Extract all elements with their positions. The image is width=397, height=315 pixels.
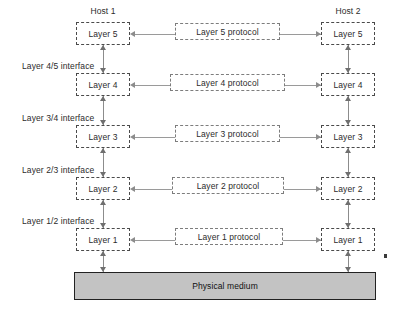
protocol-label-layer-5: Layer 5 protocol [175,23,280,40]
interface-arrow-up-host1-4-5 [100,45,106,50]
protocol-arrow-left-layer-4 [130,82,135,88]
protocol-arrow-right-layer-1 [316,237,321,243]
protocol-label-layer-3: Layer 3 protocol [175,125,280,142]
protocol-arrow-left-layer-1 [130,237,135,243]
protocol-arrow-left-layer-2 [130,186,135,192]
protocol-arrow-right-layer-4 [316,82,321,88]
interface-label-1-2: Layer 1/2 interface [22,216,94,226]
host2-layer-5-box[interactable]: Layer 5 [321,22,375,45]
interface-arrow-down-host1-4-5 [100,68,106,73]
protocol-stack-diagram: Host 1 Host 2 Layer 4/5 interface Layer … [0,0,397,315]
host2-label: Host 2 [321,6,375,16]
interface-arrow-up-host2-2-3 [345,148,351,153]
protocol-label-layer-4: Layer 4 protocol [170,74,285,91]
host2-layer-4-box[interactable]: Layer 4 [321,73,375,96]
physical-medium-bar: Physical medium [74,272,376,300]
host1-layer-1-box[interactable]: Layer 1 [76,228,130,251]
interface-arrow-up-host2-1-2 [345,200,351,205]
interface-arrow-down-host2-4-5 [345,68,351,73]
scan-artifact-speck [384,254,387,258]
interface-arrow-up-host2-4-5 [345,45,351,50]
interface-label-4-5: Layer 4/5 interface [22,61,94,71]
host1-layer-5-box[interactable]: Layer 5 [76,22,130,45]
interface-label-2-3: Layer 2/3 interface [22,165,94,175]
host1-layer-3-box[interactable]: Layer 3 [76,125,130,148]
protocol-arrow-right-layer-3 [316,134,321,140]
interface-arrow-up-host1-2-3 [100,148,106,153]
host1-layer-4-box[interactable]: Layer 4 [76,73,130,96]
medium-arrow-up-host1 [100,251,106,256]
interface-arrow-down-host2-3-4 [345,120,351,125]
interface-arrow-up-host1-1-2 [100,200,106,205]
interface-arrow-down-host1-3-4 [100,120,106,125]
interface-arrow-down-host2-1-2 [345,223,351,228]
interface-label-3-4: Layer 3/4 interface [22,113,94,123]
interface-arrow-up-host2-3-4 [345,96,351,101]
host2-layer-1-box[interactable]: Layer 1 [321,228,375,251]
protocol-label-layer-1: Layer 1 protocol [175,228,283,245]
host1-label: Host 1 [76,6,130,16]
host1-layer-2-box[interactable]: Layer 2 [76,177,130,200]
host2-layer-2-box[interactable]: Layer 2 [321,177,375,200]
interface-arrow-down-host1-2-3 [100,172,106,177]
medium-arrow-down-host1 [100,267,106,272]
protocol-label-layer-2: Layer 2 protocol [172,177,284,194]
protocol-arrow-right-layer-5 [316,31,321,37]
interface-arrow-up-host1-3-4 [100,96,106,101]
protocol-arrow-left-layer-3 [130,134,135,140]
interface-arrow-down-host1-1-2 [100,223,106,228]
protocol-arrow-right-layer-2 [316,186,321,192]
medium-arrow-up-host2 [345,251,351,256]
interface-arrow-down-host2-2-3 [345,172,351,177]
host2-layer-3-box[interactable]: Layer 3 [321,125,375,148]
protocol-arrow-left-layer-5 [130,31,135,37]
medium-arrow-down-host2 [345,267,351,272]
